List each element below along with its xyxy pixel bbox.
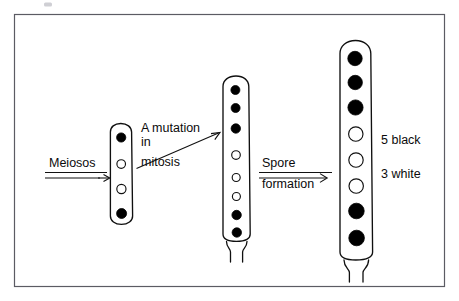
step-mutation-label-line-1: A mutation (141, 121, 200, 135)
step-mutation-label-line-2: in (141, 135, 151, 149)
ascus-3-wall (340, 41, 373, 261)
ascus-2-spore-1 (231, 86, 240, 95)
step-mutation: A mutation in mitosis (137, 121, 221, 169)
ascus-2-spore-6 (232, 193, 240, 201)
ascus-3-spore-5 (349, 153, 363, 167)
ascus-3-spore-2 (348, 75, 362, 89)
step-meiosis: Meiosos (45, 156, 110, 182)
step-mutation-label-line-3: mitosis (141, 155, 180, 169)
ascus-3-spore-8 (349, 230, 365, 246)
ascus-3-stalk-right (363, 260, 369, 282)
ascus-3 (340, 41, 373, 283)
ascus-2-spore-8 (232, 228, 241, 237)
step-meiosis-label: Meiosos (49, 156, 96, 170)
ascus-3-spore-7 (349, 203, 365, 219)
ascus-2-spore-2 (231, 104, 240, 113)
ascus-2-spore-3 (231, 124, 240, 133)
result-summary: 5 black 3 white (381, 133, 421, 181)
step-spore-formation-label-line-2: formation (262, 177, 314, 191)
ascus-1-spore-4 (117, 209, 127, 219)
ascus-2-stalk-left (227, 241, 231, 262)
ascus-3-spore-1 (348, 51, 362, 65)
ascus-2-spore-7 (232, 210, 241, 219)
result-black-count: 5 black (381, 133, 421, 147)
ascus-2-spore-4 (232, 151, 241, 160)
ascus-2-stalk-right (243, 241, 247, 262)
ascus-1-spore-1 (117, 133, 126, 142)
ascus-3-spore-4 (349, 127, 363, 141)
ascus-3-stalk-left (344, 260, 349, 282)
ascus-1-spore-3 (117, 184, 126, 193)
ascus-3-spore-6 (349, 179, 363, 193)
result-white-count: 3 white (381, 167, 421, 181)
diagram-figure: Meiosos A mutation in mitosis (0, 0, 459, 301)
ascus-1 (110, 124, 132, 225)
diagram-canvas: Meiosos A mutation in mitosis (0, 0, 459, 301)
step-spore-formation: Spore formation (259, 156, 332, 191)
ascus-1-spore-2 (117, 160, 126, 169)
ascus-2 (223, 76, 250, 262)
ascus-3-spore-3 (348, 100, 363, 115)
scan-artifact (44, 3, 52, 7)
ascus-2-spore-5 (232, 174, 240, 182)
step-spore-formation-label-line-1: Spore (262, 156, 295, 170)
